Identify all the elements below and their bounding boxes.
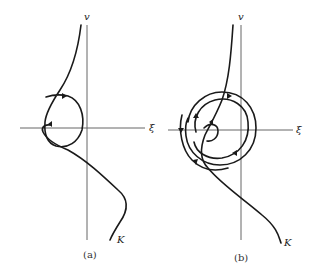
panel-a-v-label: v: [84, 12, 90, 22]
panel-b-caption: (b): [234, 253, 248, 263]
panel-a-curve-k: [42, 25, 126, 240]
panel-b-v-label: v: [238, 12, 244, 22]
panel-b-xi-label: ξ: [296, 125, 302, 135]
panel-a-caption: (a): [83, 250, 97, 260]
diagram-canvas: [0, 0, 321, 278]
panel-a-xi-label: ξ: [149, 123, 155, 133]
arrow-icon: [62, 93, 67, 99]
panel-a-k-label: K: [117, 235, 124, 245]
phase-portrait-figure: v ξ K (a) v ξ K (b): [0, 0, 321, 278]
arrow-icon: [48, 121, 52, 127]
panel-a-arrows: [48, 93, 67, 127]
panel-b-curve-k: [180, 25, 281, 243]
panel-b-k-label: K: [284, 238, 291, 248]
